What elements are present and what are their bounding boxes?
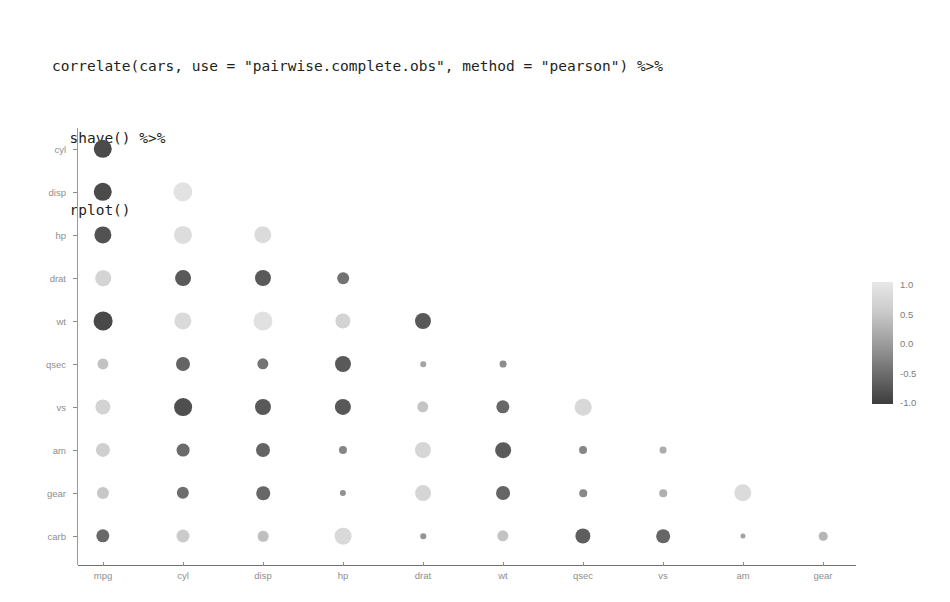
correlation-dot bbox=[253, 311, 272, 330]
correlation-dot bbox=[575, 399, 592, 416]
correlation-dot bbox=[496, 400, 509, 413]
correlation-dot bbox=[258, 531, 269, 542]
correlation-dot bbox=[740, 533, 745, 538]
y-tick-label-carb: carb bbox=[0, 531, 74, 542]
legend-colorbar: 1.00.50.0-0.5-1.0 bbox=[872, 282, 942, 408]
correlation-dot bbox=[94, 312, 113, 331]
correlation-dot bbox=[660, 447, 667, 454]
y-tick-label-hp: hp bbox=[0, 230, 74, 241]
correlation-dot bbox=[495, 442, 511, 458]
correlation-dot bbox=[174, 312, 191, 329]
correlation-dot bbox=[340, 490, 346, 496]
correlation-dot bbox=[656, 529, 670, 543]
correlation-dot bbox=[94, 140, 112, 158]
correlation-dot bbox=[500, 361, 507, 368]
correlation-dot bbox=[97, 358, 108, 369]
correlation-dot bbox=[177, 444, 190, 457]
correlation-dot bbox=[174, 398, 192, 416]
correlation-dot bbox=[575, 528, 590, 543]
x-tick-label-hp: hp bbox=[338, 570, 349, 581]
correlation-dot bbox=[659, 489, 667, 497]
correlation-dot bbox=[255, 270, 271, 286]
correlation-dot bbox=[94, 183, 112, 201]
correlation-dot bbox=[335, 313, 350, 328]
correlation-dot bbox=[176, 357, 190, 371]
colorbar-tick-label: -1.0 bbox=[900, 397, 916, 408]
x-tick-label-qsec: qsec bbox=[573, 570, 593, 581]
y-tick-label-disp: disp bbox=[0, 187, 74, 198]
correlation-dot bbox=[337, 272, 349, 284]
y-tick-label-wt: wt bbox=[0, 316, 74, 327]
correlation-plot: cyldisphpdratwtqsecvsamgearcarb mpgcyldi… bbox=[0, 118, 950, 588]
correlation-dot bbox=[335, 528, 352, 545]
y-tick-label-cyl: cyl bbox=[0, 144, 74, 155]
correlation-dot bbox=[415, 442, 431, 458]
x-axis-line bbox=[78, 565, 856, 566]
code-line-1: correlate(cars, use = "pairwise.complete… bbox=[52, 54, 663, 78]
correlation-dot bbox=[254, 226, 271, 243]
x-tick-label-vs: vs bbox=[658, 570, 668, 581]
colorbar-tick-label: 0.5 bbox=[900, 308, 913, 319]
correlation-dot bbox=[335, 399, 351, 415]
correlation-dot bbox=[256, 443, 270, 457]
y-tick-label-vs: vs bbox=[0, 402, 74, 413]
correlation-dot bbox=[420, 533, 426, 539]
x-tick-label-gear: gear bbox=[813, 570, 832, 581]
correlation-dot bbox=[415, 313, 431, 329]
correlation-dot bbox=[819, 532, 828, 541]
correlation-dot bbox=[97, 487, 109, 499]
correlation-dot bbox=[497, 530, 508, 541]
y-tick-label-qsec: qsec bbox=[0, 359, 74, 370]
correlation-dot bbox=[175, 270, 191, 286]
correlation-dot bbox=[255, 399, 271, 415]
colorbar-gradient bbox=[872, 282, 893, 404]
correlation-dot bbox=[174, 226, 192, 244]
correlation-dot bbox=[94, 226, 111, 243]
y-tick-label-gear: gear bbox=[0, 488, 74, 499]
correlation-dot bbox=[95, 399, 110, 414]
correlation-dot bbox=[579, 489, 587, 497]
y-tick-label-drat: drat bbox=[0, 273, 74, 284]
correlation-dot bbox=[96, 443, 110, 457]
correlation-dot bbox=[579, 446, 587, 454]
colorbar-tick-label: 1.0 bbox=[900, 279, 913, 290]
plot-panel bbox=[78, 128, 856, 565]
correlation-dot bbox=[496, 486, 510, 500]
correlation-dot bbox=[417, 401, 428, 412]
x-tick-label-wt: wt bbox=[498, 570, 508, 581]
colorbar-tick-label: -0.5 bbox=[900, 367, 916, 378]
correlation-dot bbox=[415, 485, 431, 501]
correlation-dot bbox=[173, 182, 192, 201]
correlation-dot bbox=[96, 529, 109, 542]
x-tick-label-mpg: mpg bbox=[94, 570, 112, 581]
correlation-dot bbox=[335, 356, 351, 372]
correlation-dot bbox=[256, 486, 270, 500]
correlation-dot bbox=[420, 361, 426, 367]
correlation-dot bbox=[177, 487, 189, 499]
correlation-dot bbox=[734, 484, 751, 501]
correlation-dot bbox=[339, 446, 347, 454]
correlation-dot bbox=[257, 358, 268, 369]
x-tick-label-disp: disp bbox=[254, 570, 271, 581]
y-tick-label-am: am bbox=[0, 445, 74, 456]
correlation-dot bbox=[95, 270, 111, 286]
correlation-dot bbox=[177, 530, 190, 543]
colorbar-tick-label: 0.0 bbox=[900, 338, 913, 349]
x-tick-label-cyl: cyl bbox=[177, 570, 189, 581]
x-tick-label-drat: drat bbox=[415, 570, 431, 581]
x-tick-label-am: am bbox=[736, 570, 749, 581]
